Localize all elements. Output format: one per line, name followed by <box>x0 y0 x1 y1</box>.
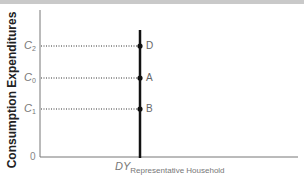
x-axis-label-main: DY <box>115 160 130 172</box>
diagram-canvas <box>0 0 304 175</box>
point-label-a: A <box>146 72 153 83</box>
tick-c0-sub: 0 <box>32 77 36 84</box>
y-axis-label: Consumption Expenditures <box>5 12 19 169</box>
tick-c1-sub: 1 <box>32 108 36 115</box>
point-label-d: D <box>146 40 153 51</box>
tick-c0: C0 <box>24 71 36 84</box>
origin-label: 0 <box>30 151 36 162</box>
tick-c2-letter: C <box>24 39 32 51</box>
tick-c1-letter: C <box>24 102 32 114</box>
tick-c0-letter: C <box>24 71 32 83</box>
point-b <box>137 106 142 111</box>
point-a <box>137 75 142 80</box>
tick-c2: C2 <box>24 39 36 52</box>
x-axis-label: DYRepresentative Household <box>115 160 225 175</box>
tick-c2-sub: 2 <box>32 45 36 52</box>
point-label-b: B <box>146 103 153 114</box>
tick-c1: C1 <box>24 102 36 115</box>
x-axis-label-subscript: Representative Household <box>130 166 224 175</box>
point-d <box>137 43 142 48</box>
